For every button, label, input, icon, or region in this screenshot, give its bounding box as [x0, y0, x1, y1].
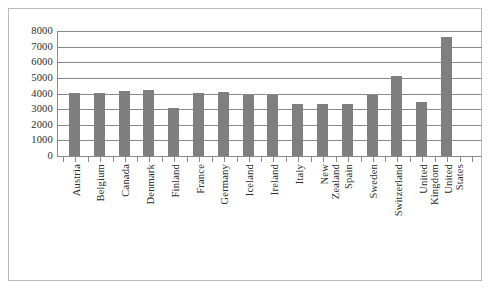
y-axis-tick-label: 5000 — [9, 73, 53, 83]
gridline — [57, 47, 482, 48]
x-axis-tick-mark — [447, 157, 448, 162]
gridline — [57, 78, 482, 79]
bar — [292, 104, 303, 156]
x-axis-tick-mark — [323, 157, 324, 162]
bar — [441, 37, 452, 156]
x-axis-tick-label: Spain — [343, 164, 354, 189]
bar — [69, 93, 80, 156]
x-axis-tick-mark — [410, 157, 411, 162]
bar — [416, 102, 427, 156]
x-axis-tick-mark — [224, 157, 225, 162]
gridline — [57, 62, 482, 63]
bar — [193, 93, 204, 156]
x-axis-tick-mark — [174, 157, 175, 162]
x-axis-tick-label: United — [418, 164, 429, 194]
x-axis-tick-mark — [336, 157, 337, 162]
x-axis-tick-mark — [422, 157, 423, 162]
x-axis-tick-label: New — [319, 164, 330, 184]
x-axis-tick-mark — [113, 157, 114, 162]
x-axis-tick-label: Denmark — [145, 164, 156, 204]
x-axis-tick-label: Austria — [71, 164, 82, 196]
bar — [267, 95, 278, 156]
x-axis-tick-mark — [137, 157, 138, 162]
bar — [143, 90, 154, 156]
bar — [391, 76, 402, 156]
y-axis-tick-label: 0 — [9, 151, 53, 161]
x-axis-tick-label: Germany — [219, 164, 230, 204]
y-axis-labels: 010002000300040005000600070008000 — [5, 0, 53, 289]
x-axis-tick-mark — [286, 157, 287, 162]
x-axis-tick-mark — [187, 157, 188, 162]
x-axis-tick-mark — [472, 157, 473, 162]
y-axis-tick-label: 8000 — [9, 26, 53, 36]
x-axis-tick-mark — [249, 157, 250, 162]
x-axis-tick-label: Belgium — [95, 164, 106, 202]
x-axis-tick-label: Ireland — [269, 164, 280, 195]
x-axis-tick-mark — [125, 157, 126, 162]
bar — [94, 93, 105, 156]
bar — [342, 104, 353, 156]
x-axis-tick-mark — [385, 157, 386, 162]
x-axis-tick-mark — [75, 157, 76, 162]
x-axis-tick-mark — [298, 157, 299, 162]
x-axis-tick-label: Switzerland — [393, 164, 404, 216]
x-axis-tick-label: Finland — [170, 164, 181, 198]
y-axis-tick-label: 3000 — [9, 104, 53, 114]
x-axis-tick-mark — [212, 157, 213, 162]
gridline — [57, 31, 482, 32]
x-axis-tick-mark — [149, 157, 150, 162]
x-axis-tick-label: France — [195, 164, 206, 194]
x-axis-tick-mark — [199, 157, 200, 162]
x-axis-tick-label: Kingdom — [429, 164, 440, 205]
bar — [243, 95, 254, 156]
x-axis-tick-mark — [373, 157, 374, 162]
x-axis-line — [57, 156, 482, 157]
x-axis-tick-label: United — [443, 164, 454, 194]
chart-figure: 010002000300040005000600070008000 Austri… — [0, 0, 490, 289]
y-axis-tick-label: 4000 — [9, 89, 53, 99]
x-axis-tick-label: Iceland — [244, 164, 255, 196]
x-axis-tick-mark — [100, 157, 101, 162]
x-axis-tick-label: Sweden — [368, 164, 379, 198]
y-axis-tick-label: 1000 — [9, 135, 53, 145]
x-axis-tick-mark — [261, 157, 262, 162]
bar — [367, 95, 378, 156]
bar — [168, 108, 179, 156]
x-axis-tick-label: States — [454, 164, 465, 190]
x-axis-tick-mark — [162, 157, 163, 162]
plot-area — [57, 31, 482, 156]
x-axis-tick-mark — [348, 157, 349, 162]
y-axis-tick-label: 6000 — [9, 57, 53, 67]
x-axis-tick-label: Canada — [120, 164, 131, 197]
x-axis-tick-mark — [397, 157, 398, 162]
x-axis-tick-mark — [435, 157, 436, 162]
y-axis-tick-label: 2000 — [9, 120, 53, 130]
x-axis-tick-mark — [273, 157, 274, 162]
x-axis-tick-mark — [311, 157, 312, 162]
x-axis-labels: AustriaBelgiumCanadaDenmarkFinlandFrance… — [57, 164, 482, 282]
y-axis-tick-label: 7000 — [9, 42, 53, 52]
x-axis-tick-mark — [361, 157, 362, 162]
bar — [119, 91, 130, 156]
x-axis-tick-mark — [237, 157, 238, 162]
x-axis-tick-label: Zealand — [330, 164, 341, 199]
bar — [218, 92, 229, 156]
bar — [317, 104, 328, 156]
x-axis-tick-mark — [460, 157, 461, 162]
x-axis-tick-label: Italy — [294, 164, 305, 184]
x-axis-tick-mark — [63, 157, 64, 162]
x-axis-tick-mark — [88, 157, 89, 162]
